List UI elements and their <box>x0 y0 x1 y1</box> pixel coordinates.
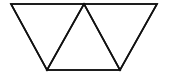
background <box>0 0 169 73</box>
trapezoid-triangles-diagram <box>0 0 169 73</box>
